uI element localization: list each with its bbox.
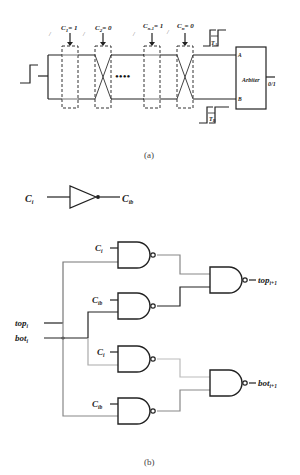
stage-n-minus-1 xyxy=(144,33,160,108)
svg-text:Arbiter: Arbiter xyxy=(241,77,260,83)
gate-4-label: Cib xyxy=(92,399,103,410)
stage-1 xyxy=(62,33,78,108)
gate-2-label: Cib xyxy=(92,295,103,306)
gate-1-label: Ci xyxy=(95,243,103,254)
svg-text:A: A xyxy=(237,52,242,58)
stage-1-label: C1= 1 xyxy=(61,24,77,33)
arbiter-block: Arbiter A B 0/1 xyxy=(236,47,276,109)
svg-text:/: / xyxy=(82,31,86,37)
bot-output-label: boti+1 xyxy=(258,378,277,389)
caption-b: (b) xyxy=(144,457,155,467)
inverter-input-label: Ci xyxy=(25,193,34,205)
nand-gate-2 xyxy=(118,293,155,319)
nand-gate-bot-output xyxy=(210,370,247,396)
nand-gate-4 xyxy=(118,398,155,424)
top-output-label: topi+1 xyxy=(258,275,277,286)
nand-gate-top-output xyxy=(210,267,247,293)
arbiter-output: 0/1 xyxy=(268,81,276,87)
nand-gate-3 xyxy=(118,346,155,372)
inverter: Ci Cib xyxy=(25,186,133,208)
input-step-signal xyxy=(20,65,38,83)
stage-n-label: Cn= 0 xyxy=(177,22,194,31)
stage-2-label: C2= 0 xyxy=(95,24,112,33)
stage-n xyxy=(177,33,193,108)
svg-text:/: / xyxy=(132,31,136,37)
ellipsis: •••• xyxy=(115,70,131,82)
svg-text:B: B xyxy=(237,96,242,102)
svg-text:/: / xyxy=(48,31,52,37)
delay-top-label: TA xyxy=(211,40,218,47)
delay-bottom-label: TB xyxy=(209,116,216,123)
gate-3-label: Ci xyxy=(97,347,105,358)
nand-gate-1 xyxy=(118,242,155,268)
caption-a: (a) xyxy=(144,150,154,160)
bot-input-label: boti xyxy=(15,333,29,344)
top-input-label: topi xyxy=(15,318,29,329)
svg-text:/: / xyxy=(166,29,170,35)
inverter-output-label: Cib xyxy=(122,193,133,205)
puf-diagram: C1= 1 C2= 0 Cn-1= 1 Cn= 0 / / / / •••• T… xyxy=(0,0,300,475)
stage-n-minus-1-label: Cn-1= 1 xyxy=(143,22,163,31)
stage-2 xyxy=(95,33,111,108)
